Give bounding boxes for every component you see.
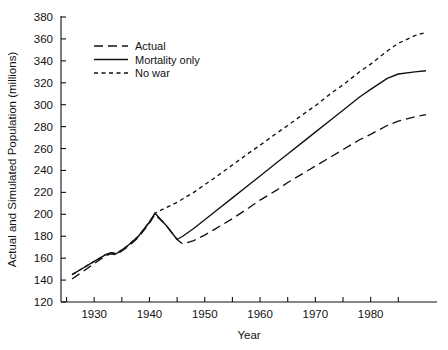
- chart-legend: ActualMortality onlyNo war: [94, 40, 200, 79]
- y-tick-label: 300: [34, 99, 53, 111]
- y-tick-label: 260: [34, 143, 53, 155]
- x-axis-title: Year: [237, 329, 260, 341]
- chart-canvas: 1201401601802002202402602803003203403603…: [0, 0, 448, 350]
- y-tick-label: 340: [34, 55, 53, 67]
- x-axis-ticks: [67, 297, 399, 302]
- x-axis-group: 193019401950196019701980: [61, 297, 437, 320]
- y-axis-tick-labels: 1201401601802002202402602803003203403603…: [34, 11, 53, 308]
- y-axis-ticks: [61, 17, 66, 302]
- y-tick-label: 240: [34, 164, 53, 176]
- series-line-mortality-only: [72, 71, 426, 275]
- y-axis-group: 1201401601802002202402602803003203403603…: [34, 11, 66, 308]
- series-line-no-war: [72, 32, 426, 274]
- legend-label: Mortality only: [135, 54, 200, 66]
- y-tick-label: 120: [34, 296, 53, 308]
- x-tick-label: 1970: [303, 308, 329, 320]
- legend-label: Actual: [135, 40, 166, 52]
- x-tick-label: 1960: [247, 308, 273, 320]
- x-axis-tick-labels: 193019401950196019701980: [81, 308, 383, 320]
- series-line-actual: [72, 115, 426, 279]
- y-tick-label: 200: [34, 208, 53, 220]
- y-tick-label: 360: [34, 33, 53, 45]
- y-tick-label: 180: [34, 230, 53, 242]
- x-tick-label: 1980: [358, 308, 384, 320]
- y-axis-title: Actual and Simulated Population (million…: [6, 52, 18, 268]
- y-tick-label: 140: [34, 274, 53, 286]
- legend-label: No war: [135, 67, 170, 79]
- y-tick-label: 280: [34, 121, 53, 133]
- y-tick-label: 320: [34, 77, 53, 89]
- x-tick-label: 1930: [81, 308, 107, 320]
- y-tick-label: 160: [34, 252, 53, 264]
- data-series-group: [72, 32, 426, 279]
- y-tick-label: 380: [34, 11, 53, 23]
- x-tick-label: 1940: [137, 308, 163, 320]
- y-tick-label: 220: [34, 186, 53, 198]
- population-simulation-chart: 1201401601802002202402602803003203403603…: [0, 0, 448, 350]
- x-tick-label: 1950: [192, 308, 218, 320]
